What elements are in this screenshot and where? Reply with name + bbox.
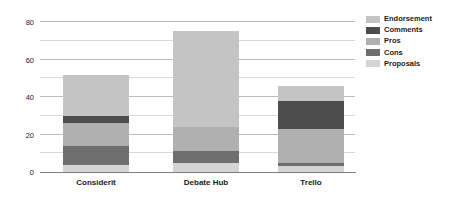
bar-group-trello[interactable]	[278, 22, 344, 172]
legend-label-cons: Cons	[384, 49, 403, 57]
bar-stack	[173, 22, 239, 172]
bar-segment-proposals[interactable]	[63, 165, 129, 173]
bar-segment-cons[interactable]	[278, 163, 344, 167]
y-tick-label-40: 40	[26, 93, 34, 102]
legend-swatch-cons	[366, 49, 380, 56]
y-tick-label-60: 60	[26, 55, 34, 64]
legend-item-endorsement[interactable]: Endorsement	[366, 15, 432, 23]
x-axis-label-trello: Trello	[300, 178, 321, 187]
legend-label-comments: Comments	[384, 26, 423, 34]
y-tick-label-0: 0	[30, 168, 34, 177]
legend-swatch-comments	[366, 27, 380, 34]
bar-stack	[278, 22, 344, 172]
stacked-bar-chart: 020406080 ConsideritDebate HubTrello End…	[0, 0, 456, 197]
bar-group-debate-hub[interactable]	[173, 22, 239, 172]
bar-stack	[63, 22, 129, 172]
bar-segment-proposals[interactable]	[173, 163, 239, 172]
x-axis-label-debate-hub: Debate Hub	[184, 178, 228, 187]
y-tick-label-80: 80	[26, 18, 34, 27]
bar-segment-pros[interactable]	[278, 129, 344, 163]
legend-item-cons[interactable]: Cons	[366, 49, 432, 57]
bar-group-considerit[interactable]	[63, 22, 129, 172]
legend-label-pros: Pros	[384, 37, 401, 45]
plot-area: 020406080	[40, 22, 355, 172]
y-tick-label-20: 20	[26, 130, 34, 139]
bar-segment-comments[interactable]	[63, 116, 129, 124]
legend-swatch-proposals	[366, 60, 380, 67]
x-axis-line	[40, 172, 356, 173]
bar-segment-pros[interactable]	[173, 127, 239, 151]
bar-segment-endorsement[interactable]	[278, 86, 344, 101]
bar-segment-pros[interactable]	[63, 123, 129, 146]
legend: EndorsementCommentsProsConsProposals	[366, 15, 432, 68]
x-axis-label-considerit: Considerit	[76, 178, 116, 187]
bar-segment-cons[interactable]	[173, 151, 239, 162]
legend-swatch-endorsement	[366, 16, 380, 23]
legend-item-proposals[interactable]: Proposals	[366, 60, 432, 68]
legend-item-comments[interactable]: Comments	[366, 26, 432, 34]
bar-segment-comments[interactable]	[278, 101, 344, 129]
legend-label-endorsement: Endorsement	[384, 15, 432, 23]
bar-segment-endorsement[interactable]	[63, 75, 129, 116]
bar-segment-cons[interactable]	[63, 146, 129, 165]
legend-label-proposals: Proposals	[384, 60, 420, 68]
bar-segment-endorsement[interactable]	[173, 31, 239, 127]
legend-swatch-pros	[366, 38, 380, 45]
legend-item-pros[interactable]: Pros	[366, 37, 432, 45]
